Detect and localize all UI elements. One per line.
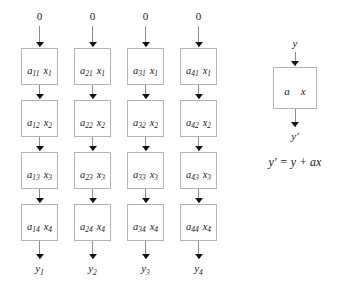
pe-cell-label: a23x3 (75, 170, 110, 181)
column-output-label: y4 (179, 263, 219, 274)
input-arrow-col3-arrowhead (142, 42, 150, 47)
link-col4-row1-arrowhead (195, 94, 203, 99)
link-col1-row1-arrowhead (36, 94, 44, 99)
column-input-label: 0 (126, 11, 166, 22)
pe-cell: a21x1 (74, 48, 111, 85)
pe-cell-label: a34x4 (128, 222, 163, 233)
pe-cell-label: a14x4 (22, 222, 57, 233)
pe-cell: a24x4 (74, 204, 111, 241)
link-col3-row2-arrowhead (142, 146, 150, 151)
link-col3-row3-arrowhead (142, 198, 150, 203)
pe-cell-label: a24x4 (75, 222, 110, 233)
pe-cell: a44x4 (180, 204, 217, 241)
link-col1-row2-arrowhead (36, 146, 44, 151)
pe-cell-label: a44x4 (181, 222, 216, 233)
pe-cell-label: a11x1 (22, 66, 57, 77)
pe-cell: a42x2 (180, 100, 217, 137)
link-col3-row4-arrowhead (142, 254, 150, 259)
link-col1-row4-arrowhead (36, 254, 44, 259)
pe-cell-label: a21x1 (75, 66, 110, 77)
pe-cell-label: a32x2 (128, 118, 163, 129)
column-output-label: y3 (126, 263, 166, 274)
input-arrow-col4-arrowhead (195, 42, 203, 47)
pe-cell-label: a43x3 (181, 170, 216, 181)
link-col2-row4-arrowhead (89, 254, 97, 259)
pe-cell: a12x2 (21, 100, 58, 137)
link-col3-row1-arrowhead (142, 94, 150, 99)
column-output-label: y2 (73, 263, 113, 274)
pe-cell-label: a41x1 (181, 66, 216, 77)
pe-cell: a34x4 (127, 204, 164, 241)
link-col4-row2-arrowhead (195, 146, 203, 151)
pe-cell: a41x1 (180, 48, 217, 85)
pe-cell: a11x1 (21, 48, 58, 85)
link-col4-row3-arrowhead (195, 198, 203, 203)
pe-cell: a14x4 (21, 204, 58, 241)
pe-cell: a32x2 (127, 100, 164, 137)
legend-output-arrow-arrowhead (291, 122, 299, 127)
input-arrow-col1-arrowhead (36, 42, 44, 47)
pe-cell-label: a33x3 (128, 170, 163, 181)
link-col2-row3-arrowhead (89, 198, 97, 203)
pe-cell: a43x3 (180, 152, 217, 189)
pe-cell-label: a12x2 (22, 118, 57, 129)
pe-cell-label: a42x2 (181, 118, 216, 129)
column-output-label: y1 (20, 263, 60, 274)
pe-cell: a13x3 (21, 152, 58, 189)
legend-formula: y′ = y + ax (240, 156, 339, 168)
pe-cell: a23x3 (74, 152, 111, 189)
legend-output-label: y′ (275, 131, 315, 142)
link-col2-row2-arrowhead (89, 146, 97, 151)
column-input-label: 0 (179, 11, 219, 22)
input-arrow-col2-arrowhead (89, 42, 97, 47)
legend-cell-label: ax (274, 86, 316, 97)
legend-input-label: y (275, 38, 315, 49)
pe-cell-label: a13x3 (22, 170, 57, 181)
column-input-label: 0 (73, 11, 113, 22)
systolic-array-figure: 0a11x1a12x2a13x3a14x4y10a21x1a22x2a23x3a… (0, 0, 339, 302)
pe-cell-label: a22x2 (75, 118, 110, 129)
pe-cell-label: a31x1 (128, 66, 163, 77)
link-col1-row3-arrowhead (36, 198, 44, 203)
link-col4-row4-arrowhead (195, 254, 203, 259)
column-input-label: 0 (20, 11, 60, 22)
legend-cell: ax (273, 67, 317, 109)
legend-input-arrow-arrowhead (291, 61, 299, 66)
pe-cell: a33x3 (127, 152, 164, 189)
link-col2-row1-arrowhead (89, 94, 97, 99)
pe-cell: a31x1 (127, 48, 164, 85)
pe-cell: a22x2 (74, 100, 111, 137)
